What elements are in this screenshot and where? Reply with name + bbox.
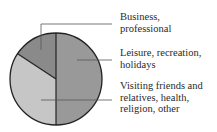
label-visiting: Visiting friends and relatives, health, … <box>120 80 203 115</box>
slice-leisure <box>56 33 102 125</box>
label-leisure: Leisure, recreation, holidays <box>120 47 201 70</box>
label-business: Business, professional <box>120 11 171 34</box>
